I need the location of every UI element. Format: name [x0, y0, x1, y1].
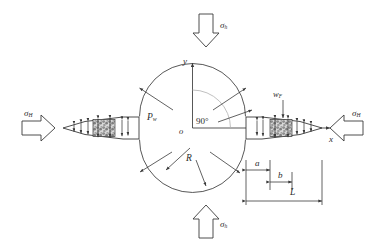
stress-arrow-bottom: [193, 205, 219, 238]
fracture-left: [63, 117, 139, 139]
fracture-width-label: wF: [273, 89, 282, 99]
origin-label: o: [179, 126, 183, 136]
x-axis-label: x: [329, 134, 333, 144]
stress-arrow-top: [193, 14, 219, 47]
schematic-drawing: [0, 0, 385, 252]
dimension-label-a: a: [255, 158, 260, 168]
dimension-label-b: b: [278, 170, 283, 180]
proppant-pack-left: [93, 119, 115, 136]
stress-label-bottom: σh: [220, 219, 227, 229]
proppant-pack-right: [270, 119, 292, 136]
stress-arrow-right: [330, 115, 363, 141]
stress-label-left: σH: [24, 108, 32, 118]
stress-label-right: σH: [352, 108, 360, 118]
dimension-label-L: L: [290, 187, 295, 197]
wellbore-radius-label: R: [186, 153, 192, 163]
stress-label-top: σh: [220, 20, 227, 30]
y-axis-label: y: [183, 56, 187, 66]
stress-arrow-left: [22, 115, 55, 141]
fracture-right: [246, 117, 322, 139]
wellbore-pressure-label: Pw: [147, 112, 157, 122]
angle-label: 90°: [196, 116, 209, 126]
figure-canvas: σh σh σH σH y x o Pw 90° R wF a b L: [0, 0, 385, 252]
